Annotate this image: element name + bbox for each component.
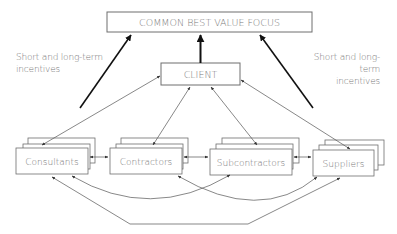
left-incentives-label: Short and long-term incentives <box>16 51 103 75</box>
subcontractors-label: Subcontractors <box>217 158 286 168</box>
common-best-value-focus-box: COMMON BEST VALUE FOCUS <box>107 12 312 32</box>
left-incentives-line1: Short and long-term <box>16 51 103 63</box>
client-label: CLIENT <box>184 69 218 80</box>
arrow-client-consultants <box>42 76 160 145</box>
common-best-value-focus-label: COMMON BEST VALUE FOCUS <box>139 17 280 28</box>
right-incentives-label: Short and long-term incentives <box>296 51 380 87</box>
arrow-client-subcontractors <box>211 87 257 145</box>
supply-chain-diagram: COMMON BEST VALUE FOCUS CLIENT Consultan… <box>0 0 397 234</box>
client-box: CLIENT <box>161 63 240 85</box>
arrow-client-contractors <box>153 87 190 145</box>
suppliers-node: Suppliers <box>313 140 384 176</box>
arc-consultants-subcontractors <box>72 175 230 199</box>
consultants-label: Consultants <box>25 157 79 167</box>
right-incentives-line2: incentives <box>296 75 380 87</box>
subcontractors-node: Subcontractors <box>210 138 299 175</box>
consultants-node: Consultants <box>16 138 95 174</box>
arc-contractors-suppliers <box>178 176 317 200</box>
left-incentives-line2: incentives <box>16 63 103 75</box>
contractors-node: Contractors <box>110 138 188 174</box>
suppliers-label: Suppliers <box>323 159 365 169</box>
right-incentives-line1: Short and long-term <box>296 51 380 75</box>
arrow-consultants-suppliers <box>52 177 340 224</box>
contractors-label: Contractors <box>120 157 173 167</box>
